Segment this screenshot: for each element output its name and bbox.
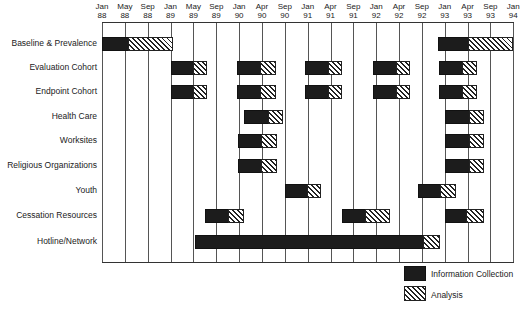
bar-information-collection: [238, 134, 262, 148]
row-label: Endpoint Cohort: [36, 86, 97, 96]
bar-information-collection: [445, 134, 470, 148]
gridline: [331, 22, 332, 262]
bar-information-collection: [373, 61, 397, 75]
row-label: Religious Organizations: [7, 160, 97, 170]
gantt-chart: Jan88May88Sep88Jan89May89Sep89Jan90Apr90…: [0, 0, 525, 315]
chart-top-border: [102, 22, 514, 23]
bar-analysis: [268, 110, 283, 124]
gridline: [353, 22, 354, 262]
bar-information-collection: [438, 37, 469, 51]
bar-analysis: [469, 134, 484, 148]
bar-analysis: [228, 209, 244, 223]
bar-information-collection: [244, 110, 269, 124]
gridline: [125, 22, 126, 262]
gridline: [148, 22, 149, 262]
legend-swatch-analysis: [404, 286, 426, 301]
bar-analysis: [260, 61, 276, 75]
bar-analysis: [193, 85, 207, 99]
row-label: Cessation Resources: [16, 210, 97, 220]
row-label: Evaluation Cohort: [29, 62, 97, 72]
bar-information-collection: [237, 61, 261, 75]
row-label: Baseline & Prevalence: [11, 38, 97, 48]
bar-information-collection: [445, 110, 470, 124]
row-label: Worksites: [60, 135, 97, 145]
bar-information-collection: [342, 209, 366, 223]
bar-analysis: [365, 209, 390, 223]
bar-analysis: [328, 85, 342, 99]
bar-analysis: [469, 110, 484, 124]
gridline: [171, 22, 172, 262]
bar-information-collection: [195, 235, 425, 249]
bar-information-collection: [237, 85, 261, 99]
row-label: Youth: [76, 185, 97, 195]
gridline: [422, 22, 423, 262]
gridline: [285, 22, 286, 262]
bar-analysis: [328, 61, 342, 75]
bar-analysis: [466, 209, 483, 223]
bar-analysis: [462, 61, 477, 75]
bar-information-collection: [171, 61, 195, 75]
bar-analysis: [261, 159, 277, 173]
bar-analysis: [307, 184, 322, 198]
chart-bottom-border: [102, 262, 514, 263]
bar-information-collection: [102, 37, 129, 51]
gridline: [490, 22, 491, 262]
bar-information-collection: [285, 184, 308, 198]
bar-analysis: [261, 134, 277, 148]
bar-analysis: [468, 37, 514, 51]
legend-label-analysis: Analysis: [431, 290, 463, 300]
bar-analysis: [396, 61, 411, 75]
gridline: [102, 22, 103, 262]
gridline: [193, 22, 194, 262]
bar-information-collection: [171, 85, 195, 99]
bar-information-collection: [373, 85, 397, 99]
bar-analysis: [260, 85, 276, 99]
bar-analysis: [462, 85, 477, 99]
bar-information-collection: [238, 159, 262, 173]
gridline: [308, 22, 309, 262]
bar-analysis: [128, 37, 173, 51]
bar-information-collection: [418, 184, 441, 198]
bar-information-collection: [305, 61, 329, 75]
bar-information-collection: [439, 61, 463, 75]
x-tick-year: 94: [498, 11, 525, 20]
bar-information-collection: [445, 159, 470, 173]
bar-information-collection: [445, 209, 468, 223]
bar-analysis: [423, 235, 440, 249]
legend-swatch-information-collection: [404, 266, 426, 281]
gridline: [399, 22, 400, 262]
bar-analysis: [193, 61, 207, 75]
bar-analysis: [396, 85, 411, 99]
legend-label-information-collection: Information Collection: [431, 269, 513, 279]
gridline: [376, 22, 377, 262]
bar-analysis: [440, 184, 456, 198]
x-tick-month: Jan: [498, 2, 525, 11]
x-tick-label: Jan94: [498, 2, 525, 20]
bar-information-collection: [439, 85, 463, 99]
bar-information-collection: [205, 209, 229, 223]
gridline: [216, 22, 217, 262]
row-label: Hotline/Network: [37, 236, 97, 246]
gridline: [513, 22, 514, 262]
row-label: Health Care: [52, 111, 97, 121]
bar-analysis: [469, 159, 484, 173]
bar-information-collection: [305, 85, 329, 99]
